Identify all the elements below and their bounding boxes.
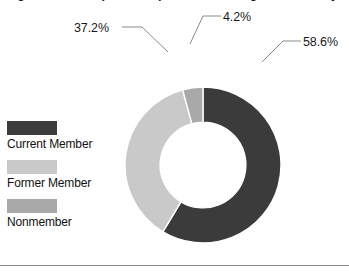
donut-chart <box>125 87 281 243</box>
footer-divider <box>0 265 349 266</box>
legend-swatch-former-member <box>7 160 57 174</box>
legend-label-current-member: Current Member <box>7 137 111 151</box>
leader-line-former-member <box>122 27 168 52</box>
chart-legend: Current Member Former Member Nonmember <box>7 121 111 238</box>
chart-figure: Figure 3. Participation in professional … <box>0 0 349 272</box>
legend-swatch-current-member <box>7 121 57 135</box>
legend-item-former-member: Former Member <box>7 160 111 190</box>
legend-label-nonmember: Nonmember <box>7 215 111 229</box>
data-label-nonmember: 4.2% <box>223 10 251 24</box>
leader-line-nonmember <box>190 16 221 44</box>
legend-item-current-member: Current Member <box>7 121 111 151</box>
legend-label-former-member: Former Member <box>7 176 111 190</box>
leader-line-current-member <box>262 41 301 62</box>
data-label-current-member: 58.6% <box>303 35 338 49</box>
data-label-former-member: 37.2% <box>74 21 109 35</box>
legend-item-nonmember: Nonmember <box>7 199 111 229</box>
page-title: Figure 3. Participation in professional … <box>6 0 346 3</box>
donut-chart-svg <box>125 87 281 243</box>
legend-swatch-nonmember <box>7 199 57 213</box>
